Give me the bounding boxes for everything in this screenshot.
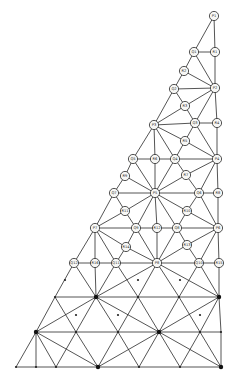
node-label: Q12 xyxy=(70,261,77,265)
mesh-edge xyxy=(218,228,219,263)
mesh-vertex-dot xyxy=(117,331,119,333)
node-label: Q2 xyxy=(171,87,176,91)
mesh-edge xyxy=(76,332,98,367)
mesh-node-p4: P4 xyxy=(212,154,221,163)
mesh-plain-nodes xyxy=(15,279,223,369)
mesh-edge xyxy=(179,263,199,297)
mesh-edge xyxy=(195,88,215,123)
mesh-node-r10: R10 xyxy=(182,206,191,215)
mesh-edge xyxy=(95,263,96,297)
mesh-edge xyxy=(36,332,98,367)
mesh-vertex-dot xyxy=(75,314,77,316)
mesh-vertex-dot xyxy=(137,296,139,298)
node-label: R3 xyxy=(183,104,188,108)
mesh-node-q4: Q4 xyxy=(170,154,179,163)
mesh-edge xyxy=(118,297,138,332)
mesh-node-p6: P6 xyxy=(213,223,222,232)
mesh-node-p7: P7 xyxy=(90,223,99,232)
mesh-node-p1: P1 xyxy=(209,11,218,20)
mesh-edge xyxy=(155,193,177,228)
mesh-edge xyxy=(159,297,179,332)
mesh-node-q8: Q8 xyxy=(172,223,181,232)
mesh-vertex-dot xyxy=(96,365,100,369)
node-label: Q4 xyxy=(172,157,178,161)
mesh-node-q7: Q7 xyxy=(109,188,118,197)
mesh-edge xyxy=(155,175,186,193)
mesh-edge xyxy=(133,159,155,193)
mesh-node-r1: R1 xyxy=(210,47,219,56)
mesh-edge xyxy=(74,263,96,297)
mesh-edge xyxy=(155,193,187,211)
mesh-edge xyxy=(154,106,185,125)
node-label: P1 xyxy=(212,14,216,18)
mesh-edge xyxy=(194,16,214,52)
node-label: R7 xyxy=(184,173,189,177)
mesh-node-r7: R7 xyxy=(181,170,190,179)
mesh-node-r13: R13 xyxy=(182,240,191,249)
mesh-edge xyxy=(157,245,187,263)
mesh-edge xyxy=(217,159,218,193)
node-label: R8 xyxy=(216,191,221,195)
mesh-node-r9: R9 xyxy=(120,171,129,180)
mesh-edge xyxy=(98,332,118,367)
mesh-edge xyxy=(157,263,179,297)
mesh-edge xyxy=(157,263,219,297)
mesh-edge xyxy=(125,176,155,193)
mesh-edge xyxy=(56,332,76,367)
node-label: R16 xyxy=(91,261,99,265)
mesh-edge xyxy=(16,332,36,367)
node-label: Q1 xyxy=(191,50,196,54)
mesh-vertex-dot xyxy=(199,314,201,316)
mesh-vertex-dot xyxy=(64,279,66,281)
mesh-edge xyxy=(219,297,221,332)
mesh-node-q11: Q11 xyxy=(111,258,120,267)
mesh-node-r16: R16 xyxy=(90,258,99,267)
mesh-edge xyxy=(155,193,157,228)
mesh-vertex-dot xyxy=(117,314,119,316)
node-label: R2 xyxy=(182,69,187,73)
mesh-edge xyxy=(133,125,154,159)
mesh-node-r2: R2 xyxy=(179,66,188,75)
mesh-node-p2: P2 xyxy=(210,83,219,92)
mesh-edge xyxy=(95,228,116,263)
mesh-vertex-dot xyxy=(220,331,222,333)
mesh-node-r3: R3 xyxy=(180,101,189,110)
mesh-edge xyxy=(200,332,221,367)
mesh-node-p5: P5 xyxy=(150,188,159,197)
mesh-node-q3: Q3 xyxy=(190,118,199,127)
node-label: R5 xyxy=(183,139,188,143)
node-label: P8 xyxy=(155,261,160,265)
node-label: Q6 xyxy=(196,191,202,195)
node-label: Q5 xyxy=(130,157,135,161)
mesh-edge xyxy=(36,297,96,332)
mesh-vertex-dot xyxy=(15,366,17,368)
mesh-vertex-dot xyxy=(54,296,56,298)
node-label: Q7 xyxy=(111,191,116,195)
mesh-edge xyxy=(138,297,159,332)
node-label: R9 xyxy=(123,174,128,178)
mesh-edge xyxy=(139,332,159,367)
mesh-vertex-dot xyxy=(199,331,201,333)
node-label: R10 xyxy=(183,209,191,213)
node-label: Q11 xyxy=(112,261,119,265)
node-label: P3 xyxy=(152,123,156,127)
mesh-edge xyxy=(174,88,215,89)
mesh-edge xyxy=(199,159,217,193)
node-label: R13 xyxy=(183,243,190,247)
mesh-edge xyxy=(157,228,177,263)
mesh-edge xyxy=(185,88,215,106)
mesh-edge xyxy=(159,332,180,367)
mesh-vertex-dot xyxy=(217,295,221,299)
mesh-node-q12: Q12 xyxy=(69,258,78,267)
mesh-edge xyxy=(155,159,175,193)
mesh-node-q10: Q10 xyxy=(194,258,203,267)
mesh-edge xyxy=(76,297,96,332)
mesh-edge xyxy=(185,141,217,159)
mesh-edge xyxy=(180,332,200,367)
mesh-vertex-dot xyxy=(75,331,77,333)
node-label: R1 xyxy=(213,50,218,54)
mesh-labeled-nodes: P1Q1R1R2Q2P2R3P3Q3R4R5Q5R6Q4P4R9R7Q7P5Q6… xyxy=(69,11,223,267)
mesh-node-q1: Q1 xyxy=(189,47,198,56)
mesh-edge xyxy=(154,125,155,159)
mesh-edge xyxy=(96,297,159,332)
